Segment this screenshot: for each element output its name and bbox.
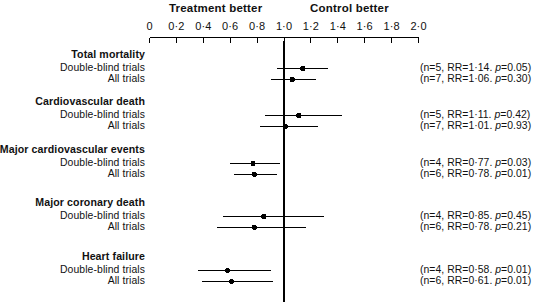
- axis-tick-8: 1·6: [357, 20, 373, 32]
- row-statistics: (n=5, RR=1·11. p=0.42): [420, 109, 530, 120]
- row-label: Double-blind trials: [60, 157, 145, 168]
- group-title: Total mortality: [71, 48, 145, 60]
- row-label: All trials: [108, 168, 145, 179]
- group-title: Major cardiovascular events: [0, 143, 145, 155]
- axis-tick-2: 0·4: [195, 20, 211, 32]
- row-label: All trials: [108, 73, 145, 84]
- row-statistics: (n=7, RR=1·06. p=0.30): [420, 73, 531, 84]
- row-statistics: (n=6, RR=0·61. p=0.01): [420, 275, 531, 286]
- axis-tick-6: 1·2: [303, 20, 319, 32]
- row-label: All trials: [108, 120, 145, 131]
- axis-tick-7: 1·4: [330, 20, 346, 32]
- row-statistics: (n=7, RR=1·01. p=0.93): [420, 120, 531, 131]
- treatment-better-label: Treatment better: [169, 2, 262, 14]
- axis-tick-9: 1·8: [383, 20, 399, 32]
- row-statistics: (n=6, RR=0·78. p=0.01): [420, 168, 531, 179]
- axis-tick-0: 0: [146, 20, 152, 32]
- row-label: Double-blind trials: [60, 264, 145, 275]
- row-label: Double-blind trials: [60, 210, 145, 221]
- group-title: Major coronary death: [35, 196, 145, 208]
- axis-tick-4: 0·8: [249, 20, 265, 32]
- row-label: All trials: [108, 275, 145, 286]
- row-statistics: (n=4, RR=0·85. p=0.45): [420, 210, 531, 221]
- row-statistics: (n=5, RR=1·14. p=0.05): [420, 62, 531, 73]
- axis-tick-10: 2·0: [410, 20, 426, 32]
- axis-tick-5: 1·0: [276, 20, 292, 32]
- control-better-label: Control better: [310, 2, 389, 14]
- row-statistics: (n=6, RR=0·78. p=0.21): [420, 221, 531, 232]
- row-label: Double-blind trials: [60, 109, 145, 120]
- axis-tick-1: 0·2: [168, 20, 184, 32]
- group-title: Heart failure: [82, 250, 145, 262]
- axis-tick-3: 0·6: [222, 20, 238, 32]
- row-statistics: (n=4, RR=0·58. p=0.01): [420, 264, 531, 275]
- row-statistics: (n=4, RR=0·77. p=0.03): [420, 157, 531, 168]
- row-label: All trials: [108, 221, 145, 232]
- group-title: Cardiovascular death: [35, 95, 145, 107]
- row-label: Double-blind trials: [60, 62, 145, 73]
- forest-plot: Treatment better Control better 00·20·40…: [0, 0, 539, 308]
